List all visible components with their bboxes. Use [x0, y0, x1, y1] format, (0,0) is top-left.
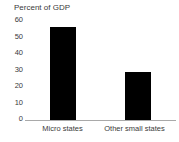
y-axis-tick-0: 0	[1, 115, 23, 123]
bar-chart: Percent of GDP 60 50 40 30 20 10 0 Micro…	[0, 0, 179, 142]
y-axis-tick-10: 10	[1, 99, 23, 107]
y-axis-tick-60: 60	[1, 16, 23, 24]
y-axis-tick-20: 20	[1, 82, 23, 90]
y-axis-tick-50: 50	[1, 33, 23, 41]
y-axis-tick-40: 40	[1, 49, 23, 57]
bar-micro-states	[50, 27, 76, 120]
y-axis-tick-30: 30	[1, 66, 23, 74]
x-axis-label-other-small-states: Other small states	[90, 124, 179, 133]
x-axis-line	[25, 120, 176, 121]
y-axis: 60 50 40 30 20 10 0	[0, 0, 23, 142]
bar-other-small-states	[125, 72, 151, 120]
plot-area	[25, 18, 176, 120]
